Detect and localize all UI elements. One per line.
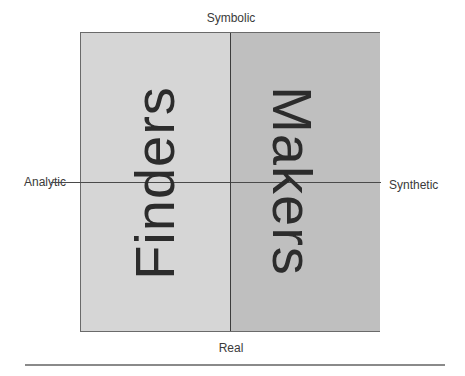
bottom-divider — [25, 364, 445, 366]
axis-label-symbolic: Symbolic — [0, 11, 462, 25]
horizontal-axis-line — [51, 182, 381, 183]
vertical-axis-line — [230, 33, 231, 331]
axis-label-real: Real — [0, 341, 462, 355]
makers-label: Makers — [264, 86, 320, 276]
axis-label-synthetic: Synthetic — [389, 178, 438, 192]
quadrant-diagram: Finders Makers — [80, 32, 380, 332]
finders-label: Finders — [127, 86, 183, 280]
